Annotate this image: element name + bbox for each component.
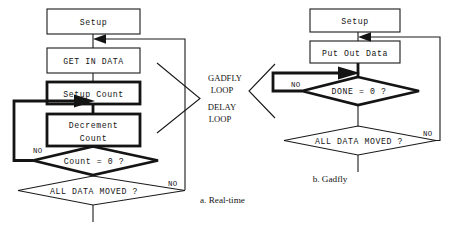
right-flowchart-gadfly: Setup Put Out Data NO DONE = 0 ? ALL DAT… xyxy=(273,9,440,184)
right-label-all-data-no: NO xyxy=(423,130,433,138)
left-node-decrement-count-label-line1: Decrement xyxy=(69,121,119,130)
delay-loop-label-line1: DELAY xyxy=(208,102,236,112)
left-node-count-check-label: Count = 0 ? xyxy=(64,157,125,166)
delay-loop-bracket xyxy=(157,63,200,133)
left-feedback-arrowhead xyxy=(93,34,106,44)
right-node-all-data-moved-label: ALL DATA MOVED ? xyxy=(315,137,403,146)
gadfly-loop-label-line1: GADFLY xyxy=(208,73,242,83)
right-node-setup-label: Setup xyxy=(341,17,369,26)
gadfly-loop-bracket xyxy=(249,64,275,118)
right-chart-caption: b. Gadfly xyxy=(313,174,348,184)
right-no-loop-path xyxy=(273,73,340,91)
left-node-decrement-count-label-line2: Count xyxy=(80,134,108,143)
left-label-all-data-no: NO xyxy=(168,180,178,188)
center-annotations: GADFLY LOOP DELAY LOOP xyxy=(157,63,275,133)
left-node-get-in-data-label: GET IN DATA xyxy=(63,57,124,66)
right-node-put-out-data-label: Put Out Data xyxy=(322,49,388,58)
flowchart-figure: Setup GET IN DATA Setup Count Decrement … xyxy=(0,0,452,241)
gadfly-loop-label-line2: LOOP xyxy=(211,85,234,95)
left-node-setup-label: Setup xyxy=(80,18,108,27)
left-chart-caption: a. Real-time xyxy=(200,195,245,205)
left-node-setup-count-label: Setup Count xyxy=(63,90,124,99)
left-node-all-data-moved-label: ALL DATA MOVED ? xyxy=(50,187,138,196)
delay-loop-label-line2: LOOP xyxy=(209,114,232,124)
left-label-count-no: NO xyxy=(33,147,43,155)
right-label-done-no: NO xyxy=(291,81,301,89)
right-node-done-check-label: DONE = 0 ? xyxy=(331,87,386,96)
right-feedback-arrowhead xyxy=(358,32,371,42)
